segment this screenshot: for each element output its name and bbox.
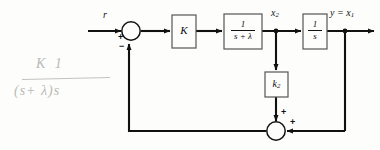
- summing-junction-input: [122, 22, 140, 40]
- block-label-lag: 1 s + λ: [231, 20, 255, 41]
- block-diagram-figure: r x2 y = x1 + − + + K 1 s + λ 1 s k2 K 1…: [0, 0, 380, 150]
- handwritten-annotation: K 1 (s+ λ)s: [14, 56, 118, 110]
- label-output: y = x1: [330, 8, 354, 19]
- block-label-feedback-gain: k2: [265, 79, 288, 90]
- lag-denominator: s + λ: [234, 31, 252, 41]
- sign-input-sum-feedback: −: [119, 42, 124, 51]
- sign-feedback-sum-outer: +: [290, 118, 295, 127]
- block-label-integrator: 1 s: [308, 20, 322, 41]
- annotation-numerator: K 1: [36, 56, 65, 72]
- sign-feedback-sum-inner: +: [281, 108, 286, 117]
- node-dot-output: [343, 29, 348, 34]
- label-output-base: y = x: [330, 7, 351, 18]
- integrator-denominator: s: [313, 31, 317, 41]
- label-output-sub: 1: [351, 11, 354, 18]
- integrator-numerator: 1: [313, 20, 318, 30]
- node-dot-x2: [274, 29, 279, 34]
- annotation-fraction-bar: [22, 77, 110, 80]
- label-state-x2-sub: 2: [275, 11, 278, 18]
- summing-junction-feedback: [267, 122, 285, 140]
- feedback-gain-sub: 2: [277, 82, 280, 89]
- label-reference-input: r: [103, 10, 107, 20]
- block-label-gain-k: K: [172, 25, 196, 36]
- lag-numerator: 1: [241, 20, 246, 30]
- label-state-x2: x2: [271, 8, 279, 19]
- annotation-denominator: (s+ λ)s: [14, 83, 60, 99]
